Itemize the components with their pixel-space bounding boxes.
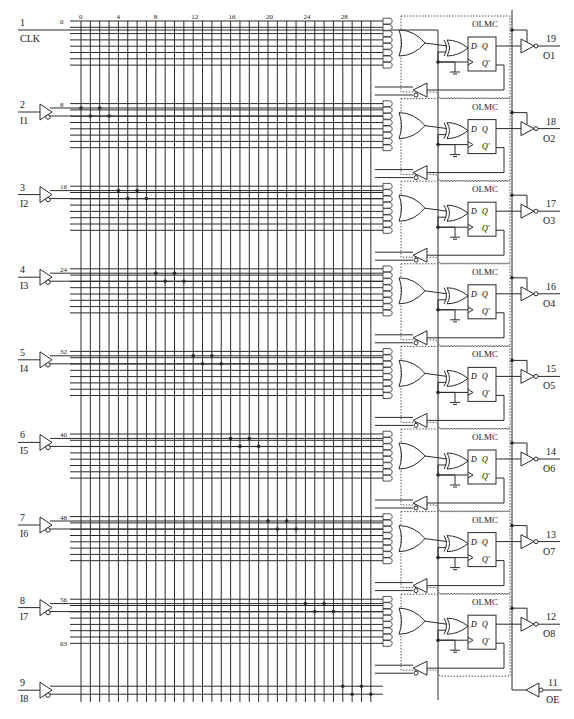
output-pin-name: O4 <box>543 298 555 309</box>
and-gate-icon <box>383 380 392 386</box>
and-gate-icon <box>383 31 392 37</box>
inverter-bubble-icon <box>534 457 538 461</box>
connection-dot <box>360 684 364 688</box>
and-gate-icon <box>383 298 392 304</box>
input-buffer-i1: 2I1 <box>18 99 383 126</box>
ff-d-label: D <box>470 538 477 547</box>
input-pin-name: I5 <box>20 445 28 456</box>
and-gate-icon <box>383 361 392 367</box>
olmc-label: OLMC <box>472 184 498 194</box>
output-pins: 11OE <box>512 10 562 705</box>
input-buffer-i3: 4I3 <box>18 264 383 291</box>
ff-d-label: D <box>470 620 477 629</box>
row-label: 63 <box>60 640 68 648</box>
and-gate-icon <box>383 431 392 437</box>
xor-gate-icon <box>447 123 468 139</box>
oe-pin-name: OE <box>546 694 559 705</box>
connection-dot <box>107 114 111 118</box>
inverter-bubble-icon <box>414 671 418 675</box>
oe-buffer-icon <box>526 683 539 697</box>
output-pin-name: O1 <box>543 50 555 61</box>
and-gate-icon <box>383 266 392 272</box>
row-label: 24 <box>60 266 68 274</box>
connection-dot <box>285 519 289 523</box>
ff-q-label: Q <box>482 290 488 299</box>
connection-dot <box>145 197 149 201</box>
ff-q-label: Q <box>482 207 488 216</box>
and-gate-icon <box>383 386 392 392</box>
olmc-label: OLMC <box>472 515 498 525</box>
xor-gate-icon <box>447 453 468 469</box>
olmc-label: OLMC <box>472 432 498 442</box>
column-labels: 0481216202428 <box>79 13 348 21</box>
input-pin-name: I1 <box>20 115 28 126</box>
inverter-bubble-icon <box>534 209 538 213</box>
ff-qbar-label: Q' <box>482 224 490 233</box>
connection-dot <box>436 308 440 312</box>
inverter-bubble-icon <box>46 115 50 119</box>
input-pin-name: I7 <box>20 611 28 622</box>
connection-dot <box>173 271 177 275</box>
and-gate-icon <box>383 450 392 456</box>
and-gate-icon <box>383 202 392 208</box>
and-gate-icon <box>383 139 392 145</box>
column-label: 8 <box>154 13 158 21</box>
column-label: 20 <box>266 13 274 21</box>
and-gate-icon <box>383 615 392 621</box>
inverter-bubble-icon <box>534 622 538 626</box>
inverter-bubble-icon <box>414 258 418 262</box>
and-gate-icon <box>383 514 392 520</box>
output-pin-number: 15 <box>546 363 556 374</box>
clk-pin-number: 1 <box>20 17 25 28</box>
connection-dot <box>436 556 440 560</box>
input-buffer-i4: 5I4 <box>18 347 383 374</box>
and-gate-icon <box>383 190 392 196</box>
xor-gate-icon <box>447 205 468 221</box>
and-gate-icon <box>383 520 392 526</box>
or-gate-icon <box>399 360 425 386</box>
ff-q-label: Q <box>482 125 488 134</box>
column-label: 24 <box>303 13 311 21</box>
and-gate-icon <box>383 603 392 609</box>
and-gate-icon <box>383 279 392 285</box>
or-gate-icon <box>399 608 425 634</box>
connection-dot <box>126 197 130 201</box>
input-buffer-i5: 6I5 <box>18 429 383 456</box>
connection-dot <box>304 602 308 606</box>
and-gate-icon <box>383 393 392 399</box>
connection-dot <box>117 189 121 193</box>
input-pin-name: I6 <box>20 528 28 539</box>
and-gate-icon <box>383 145 392 151</box>
inverter-bubble-icon <box>414 506 418 510</box>
inverter-bubble-icon <box>534 292 538 296</box>
and-gate-icon <box>383 101 392 107</box>
olmc-block-3: OLMCDQQ'17O3 <box>375 181 560 263</box>
column-label: 28 <box>341 13 349 21</box>
and-gate-icon <box>383 291 392 297</box>
row-label: 56 <box>60 596 68 604</box>
and-gate-icon <box>383 558 392 564</box>
connection-dot <box>341 684 345 688</box>
olmc-block-7: OLMCDQQ'13O7 <box>375 512 560 594</box>
olmc-label: OLMC <box>472 102 498 112</box>
olmc-block-1: OLMCDQQ'19O1 <box>375 16 560 98</box>
and-gate-icon <box>383 50 392 56</box>
connection-dot <box>219 362 223 366</box>
inverter-bubble-icon <box>534 44 538 48</box>
olmc-block-5: OLMCDQQ'15O5 <box>375 346 560 428</box>
connection-dot <box>79 106 83 110</box>
and-gate-icon <box>383 641 392 647</box>
and-gate-icon <box>383 18 392 24</box>
connection-dot <box>369 692 373 696</box>
inverter-bubble-icon <box>46 693 50 697</box>
input-buffers: 2I13I24I35I46I57I68I79I8 <box>18 99 383 704</box>
connection-dot <box>322 602 326 606</box>
output-pin-number: 14 <box>546 446 556 457</box>
and-gate-icon <box>383 113 392 119</box>
connection-dot <box>154 271 158 275</box>
ff-qbar-label: Q' <box>482 59 490 68</box>
and-gate-icon <box>383 596 392 602</box>
output-pin-number: 13 <box>546 529 556 540</box>
and-gate-icon <box>383 107 392 113</box>
ff-q-label: Q <box>482 455 488 464</box>
